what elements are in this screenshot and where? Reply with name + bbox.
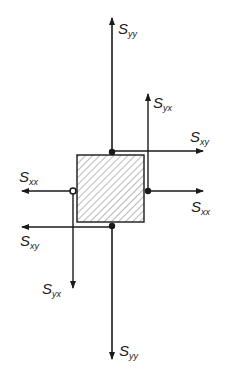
label-syy-top: Syy <box>118 20 138 39</box>
label-sxx-right: Sxx <box>191 198 211 217</box>
label-sxy-right: Sxy <box>190 128 210 147</box>
top-point <box>109 149 115 155</box>
label-sxy-left: Sxy <box>20 232 40 251</box>
bottom-point <box>109 223 115 229</box>
label-syx-bottom: Syx <box>42 280 62 299</box>
label-syy-bottom: Syy <box>119 342 139 361</box>
stress-element <box>77 155 144 222</box>
left-point <box>70 188 76 194</box>
label-syx-top: Syx <box>153 94 173 113</box>
stress-diagram: Syy Syx Sxy Sxx Sxx Sxy Syx Syy <box>0 0 238 374</box>
label-sxx-left: Sxx <box>19 168 39 187</box>
right-point <box>145 188 151 194</box>
